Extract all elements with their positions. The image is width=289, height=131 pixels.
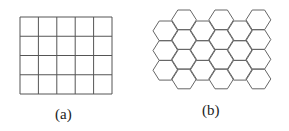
hexagon-cell xyxy=(246,69,271,89)
hexagonal-grid xyxy=(153,10,271,89)
hexagon-cell xyxy=(209,69,234,89)
diagram-canvas xyxy=(0,0,289,131)
label-b: (b) xyxy=(202,102,220,119)
hexagon-cell xyxy=(172,69,197,89)
label-a: (a) xyxy=(55,106,72,123)
square-grid xyxy=(20,17,112,94)
